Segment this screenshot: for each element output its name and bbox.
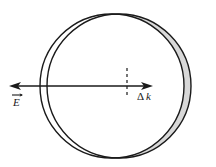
electric-field-label: E bbox=[12, 96, 20, 108]
figure-container: E Δ k bbox=[0, 0, 216, 167]
fermi-sphere-diagram: E Δ k bbox=[0, 0, 216, 167]
delta-symbol-label: Δ bbox=[137, 90, 144, 102]
